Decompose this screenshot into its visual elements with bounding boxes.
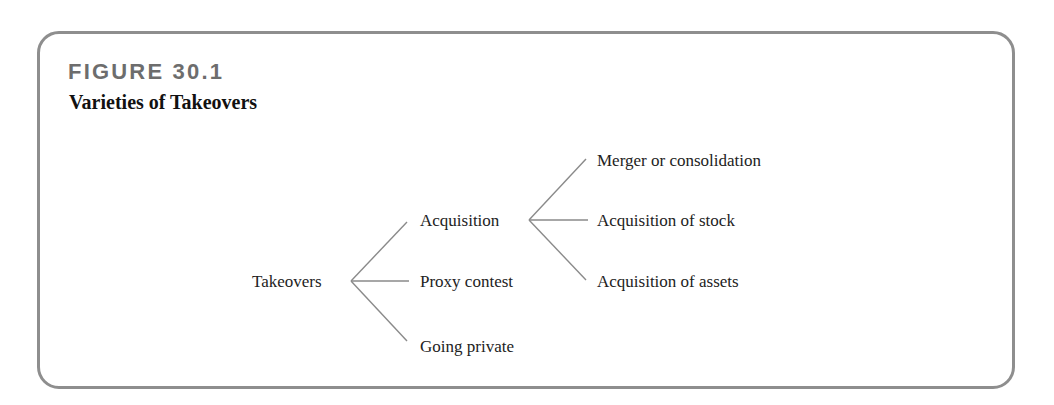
- node-acquisition-of-assets: Acquisition of assets: [597, 272, 739, 292]
- tree-connectors: [0, 0, 1054, 405]
- root-fork: [351, 222, 409, 341]
- node-takeovers: Takeovers: [252, 272, 322, 292]
- connector-root-acquisition: [351, 222, 407, 281]
- connector-acq-merger: [529, 159, 586, 220]
- acquisition-fork: [529, 159, 588, 280]
- node-merger-or-consolidation: Merger or consolidation: [597, 151, 761, 171]
- connector-root-private: [351, 281, 407, 341]
- connector-acq-assets: [529, 220, 586, 280]
- node-going-private: Going private: [420, 337, 514, 357]
- node-acquisition-of-stock: Acquisition of stock: [597, 211, 735, 231]
- node-acquisition: Acquisition: [420, 211, 499, 231]
- node-proxy-contest: Proxy contest: [420, 272, 513, 292]
